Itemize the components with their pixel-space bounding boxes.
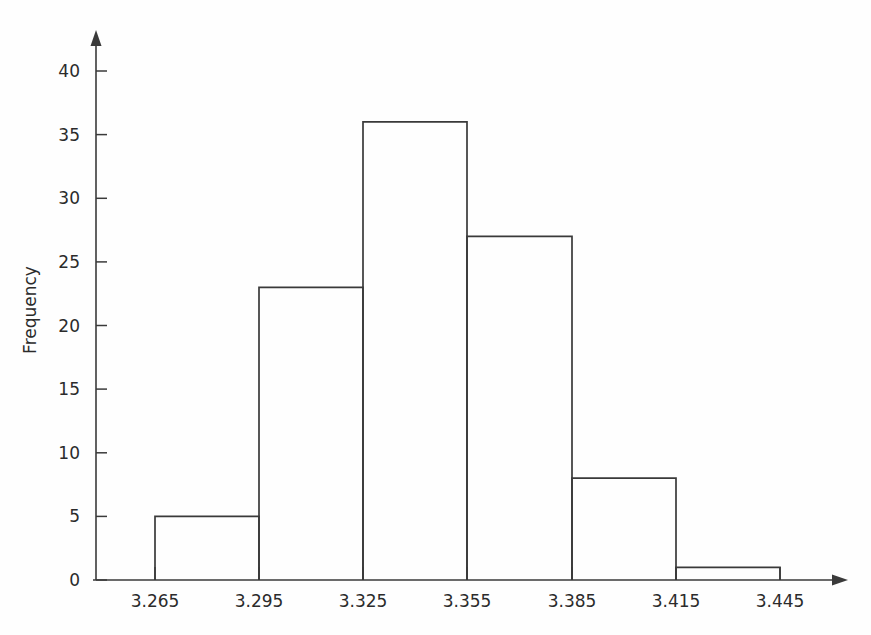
y-tick-label-5: 5 (69, 506, 80, 526)
y-tick-label-20: 20 (58, 316, 80, 336)
histogram-bar (676, 567, 780, 580)
y-tick-label-15: 15 (58, 379, 80, 399)
x-tick-label-3325: 3.325 (339, 591, 388, 611)
y-tick-labels: 0 5 10 15 20 25 30 35 40 (58, 61, 80, 590)
y-tick-marks (96, 71, 107, 580)
histogram-bar (155, 516, 259, 580)
x-tick-label-3385: 3.385 (548, 591, 597, 611)
x-tick-label-3355: 3.355 (443, 591, 492, 611)
y-axis-arrow-icon (91, 30, 102, 46)
x-axis (93, 575, 848, 586)
x-tick-label-3295: 3.295 (235, 591, 284, 611)
y-tick-label-40: 40 (58, 61, 80, 81)
y-axis-title: Frequency (20, 266, 40, 354)
x-tick-labels: 3.265 3.295 3.325 3.355 3.385 3.415 3.44… (131, 591, 805, 611)
y-axis (91, 30, 102, 580)
y-tick-label-10: 10 (58, 443, 80, 463)
histogram-bar (572, 478, 676, 580)
histogram-bar (363, 122, 467, 580)
x-axis-arrow-icon (832, 575, 848, 586)
y-tick-label-0: 0 (69, 570, 80, 590)
x-tick-label-3445: 3.445 (756, 591, 805, 611)
histogram-bars (155, 122, 780, 580)
histogram-bar (467, 236, 572, 580)
histogram-plot: 0 5 10 15 20 25 30 35 40 3.265 3.295 3.3… (0, 0, 871, 635)
x-tick-label-3415: 3.415 (652, 591, 701, 611)
histogram-bar (259, 287, 363, 580)
y-tick-label-25: 25 (58, 252, 80, 272)
histogram-figure: 0 5 10 15 20 25 30 35 40 3.265 3.295 3.3… (0, 0, 871, 635)
x-tick-label-3265: 3.265 (131, 591, 180, 611)
y-tick-label-35: 35 (58, 125, 80, 145)
y-tick-label-30: 30 (58, 188, 80, 208)
